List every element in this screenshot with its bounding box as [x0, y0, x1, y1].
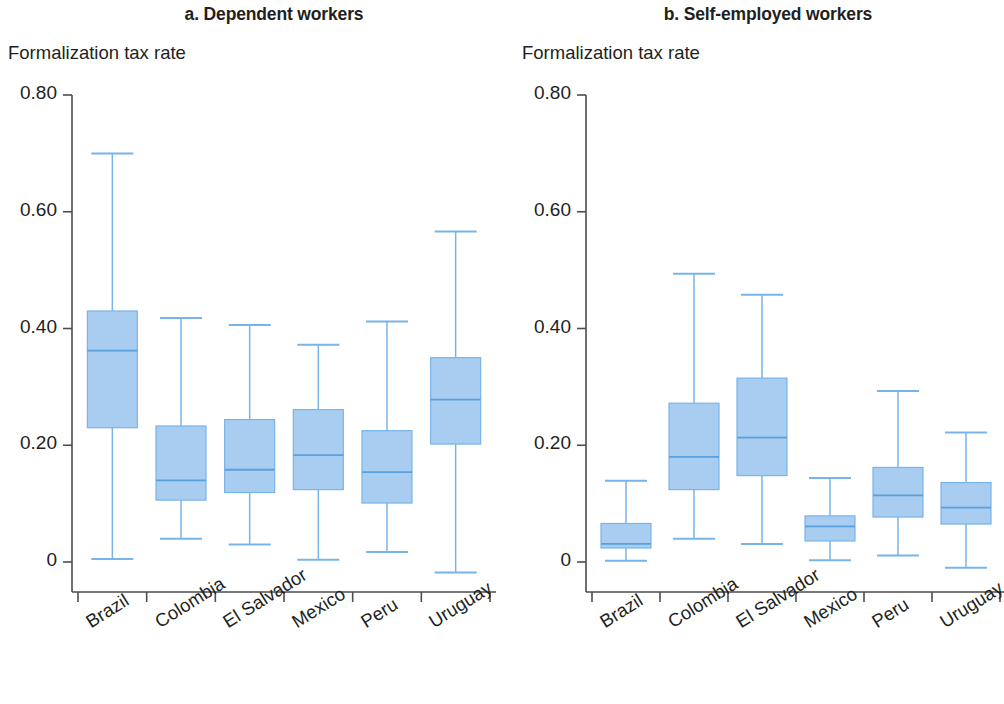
y-tick-label: 0.60	[0, 199, 57, 221]
panel-self-employed-workers: b. Self-employed workers Formalization t…	[502, 0, 1004, 704]
box-plot-el-salvador	[225, 325, 275, 544]
box-plot-mexico	[805, 478, 855, 560]
y-tick-label: 0	[487, 549, 571, 571]
box-plot-mexico	[293, 345, 343, 560]
box-plot-colombia	[156, 318, 206, 539]
y-tick-label: 0.40	[0, 316, 57, 338]
panel-b-plot-area	[502, 0, 1004, 704]
box-plot-peru	[873, 391, 923, 556]
box-plot-colombia	[669, 274, 719, 539]
panel-dependent-workers: a. Dependent workers Formalization tax r…	[0, 0, 502, 704]
y-tick-label: 0.40	[487, 316, 571, 338]
y-tick-label: 0.80	[0, 82, 57, 104]
box-plot-el-salvador	[737, 295, 787, 544]
y-tick-label: 0.60	[487, 199, 571, 221]
box-plot-figure: a. Dependent workers Formalization tax r…	[0, 0, 1004, 704]
box-plot-peru	[362, 321, 412, 552]
y-tick-label: 0.20	[0, 432, 57, 454]
y-tick-label: 0.80	[487, 82, 571, 104]
y-tick-label: 0	[0, 549, 57, 571]
y-tick-label: 0.20	[487, 432, 571, 454]
box-plot-uruguay	[941, 432, 991, 567]
box-plot-uruguay	[431, 232, 481, 573]
box-plot-brazil	[87, 153, 137, 559]
box-plot-brazil	[601, 481, 651, 561]
